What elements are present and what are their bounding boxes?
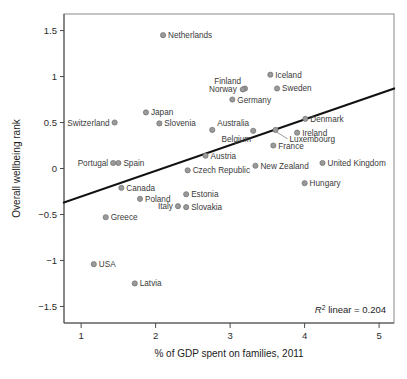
data-point[interactable]: Iceland [268, 71, 302, 80]
x-tick-label: 3 [227, 330, 232, 341]
data-point[interactable]: Australia [210, 119, 250, 133]
point-marker[interactable] [184, 192, 189, 197]
data-point[interactable]: Switzerland [67, 119, 117, 128]
y-tick-label: −0.5 [38, 209, 57, 220]
data-point[interactable]: United Kingdom [320, 159, 386, 168]
x-tick-label: 5 [376, 330, 381, 341]
r-squared-annotation: R2 linear = 0.204 [315, 304, 386, 316]
point-marker[interactable] [251, 128, 256, 133]
point-label: Latvia [140, 279, 162, 288]
data-point[interactable]: Norway [209, 85, 245, 94]
point-marker[interactable] [268, 72, 273, 77]
point-label: Netherlands [168, 31, 212, 40]
point-label: USA [99, 260, 116, 269]
point-label: Slovenia [164, 119, 196, 128]
y-tick-label: −1.5 [38, 301, 57, 312]
point-label: Japan [151, 108, 174, 117]
point-marker[interactable] [116, 160, 121, 165]
point-marker[interactable] [160, 33, 165, 38]
point-label: Iceland [275, 71, 302, 80]
point-marker[interactable] [157, 121, 162, 126]
point-marker[interactable] [143, 110, 148, 115]
x-axis-title: % of GDP spent on families, 2011 [154, 348, 304, 359]
data-point[interactable]: USA [91, 260, 116, 269]
data-point[interactable]: Sweden [274, 84, 312, 93]
data-point[interactable]: Germany [230, 96, 272, 105]
point-marker[interactable] [91, 262, 96, 267]
point-label: Hungary [310, 179, 342, 188]
point-label: Norway [209, 85, 238, 94]
point-marker[interactable] [112, 120, 117, 125]
data-point[interactable]: Belgium [222, 128, 256, 144]
point-marker[interactable] [230, 97, 235, 102]
data-point[interactable]: Netherlands [160, 31, 212, 40]
data-point[interactable]: Hungary [302, 179, 341, 188]
point-label: Estonia [191, 190, 219, 199]
point-label: New Zealand [260, 162, 309, 171]
data-point[interactable]: Canada [119, 184, 156, 193]
point-marker[interactable] [253, 163, 258, 168]
point-marker[interactable] [240, 87, 245, 92]
point-label: Ireland [302, 129, 327, 138]
data-point[interactable]: Slovakia [184, 203, 223, 212]
point-marker[interactable] [137, 196, 142, 201]
data-point[interactable]: Greece [103, 213, 138, 222]
scatter-plot-figure: 1.510.50−0.5−1−1.512345% of GDP spent on… [0, 0, 407, 379]
point-marker[interactable] [185, 168, 190, 173]
point-marker[interactable] [184, 205, 189, 210]
point-marker[interactable] [210, 127, 215, 132]
point-label: Portugal [78, 159, 109, 168]
x-tick-label: 2 [153, 330, 158, 341]
point-label: Greece [111, 213, 138, 222]
data-point[interactable]: Slovenia [157, 119, 196, 128]
point-label: Slovakia [191, 203, 222, 212]
data-point[interactable]: Spain [116, 159, 145, 168]
point-label: Czech Republic [193, 166, 250, 175]
data-point[interactable]: Denmark [303, 115, 345, 124]
point-marker[interactable] [295, 130, 300, 135]
point-label: Austria [211, 152, 237, 161]
point-label: Germany [237, 96, 272, 105]
point-marker[interactable] [271, 143, 276, 148]
point-marker[interactable] [175, 204, 180, 209]
y-tick-label: 0 [52, 163, 57, 174]
x-tick-label: 4 [302, 330, 307, 341]
data-point[interactable]: Czech Republic [185, 166, 250, 175]
point-marker[interactable] [303, 116, 308, 121]
regression-fit-line [64, 88, 394, 202]
point-marker[interactable] [274, 86, 279, 91]
point-marker[interactable] [119, 185, 124, 190]
r-squared-value: linear = 0.204 [326, 304, 386, 315]
data-point[interactable]: New Zealand [253, 162, 309, 171]
point-marker[interactable] [273, 127, 278, 132]
point-marker[interactable] [103, 215, 108, 220]
data-point[interactable]: Italy [158, 202, 181, 211]
y-tick-label: 0.5 [44, 117, 57, 128]
point-label: Canada [126, 184, 155, 193]
y-tick-label: 1.5 [44, 25, 57, 36]
data-point[interactable]: Latvia [132, 279, 162, 288]
data-point[interactable]: Japan [143, 108, 173, 117]
point-label: Sweden [282, 84, 312, 93]
point-marker[interactable] [111, 160, 116, 165]
data-point[interactable]: France [271, 142, 305, 151]
point-marker[interactable] [302, 181, 307, 186]
point-label: Belgium [222, 135, 252, 144]
point-label: France [278, 142, 304, 151]
label-leader-line [276, 131, 288, 139]
y-tick-label: −1 [46, 255, 57, 266]
x-tick-label: 1 [78, 330, 83, 341]
point-label: Australia [217, 119, 249, 128]
point-label: Denmark [310, 115, 344, 124]
point-label: Spain [123, 159, 144, 168]
y-axis-title: Overall wellbeing rank [11, 118, 22, 217]
point-marker[interactable] [320, 160, 325, 165]
data-point[interactable]: Portugal [78, 159, 116, 168]
point-label: Switzerland [67, 119, 110, 128]
point-marker[interactable] [132, 281, 137, 286]
y-tick-label: 1 [52, 71, 57, 82]
point-label: Italy [158, 202, 174, 211]
chart-canvas: 1.510.50−0.5−1−1.512345% of GDP spent on… [0, 0, 407, 379]
data-point[interactable]: Estonia [184, 190, 219, 199]
point-marker[interactable] [203, 153, 208, 158]
